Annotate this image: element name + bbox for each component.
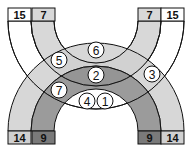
bottom-labels: 14 9 9 14 [8, 131, 184, 144]
label-bottom-left-inner: 9 [40, 132, 46, 144]
label-top-right-outer: 15 [166, 9, 178, 21]
diagram-canvas: 15 7 7 15 14 9 9 14 6 5 2 3 7 4 1 [0, 0, 192, 149]
label-bottom-left-outer: 14 [13, 132, 26, 144]
region-7: 7 [56, 84, 63, 98]
label-bottom-right-inner: 9 [146, 132, 152, 144]
top-labels: 15 7 7 15 [8, 8, 184, 21]
region-2: 2 [93, 69, 100, 83]
label-top-left-outer: 15 [13, 9, 25, 21]
label-bottom-right-outer: 14 [166, 132, 179, 144]
region-5: 5 [56, 54, 63, 68]
region-3: 3 [149, 68, 156, 82]
band-crossing-diagram: 15 7 7 15 14 9 9 14 6 5 2 3 7 4 1 [0, 0, 192, 149]
region-4: 4 [84, 95, 91, 109]
region-6: 6 [93, 44, 100, 58]
label-top-left-inner: 7 [40, 9, 46, 21]
label-top-right-inner: 7 [146, 9, 152, 21]
region-1: 1 [102, 95, 109, 109]
